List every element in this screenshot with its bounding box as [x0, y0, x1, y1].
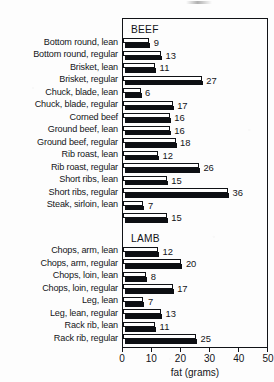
x-axis-title: fat (grams)	[122, 367, 268, 379]
category-label: Leg, lean	[0, 295, 118, 305]
bar-value-label: 15	[171, 212, 181, 223]
bar-value-label: 11	[160, 62, 170, 73]
bar-lower-face	[125, 56, 162, 61]
bar-lower-face	[125, 118, 171, 123]
bar: 27	[123, 76, 202, 87]
bar-lower-face	[125, 81, 203, 86]
bar-lower-face	[125, 327, 156, 332]
bar: 20	[123, 259, 181, 270]
plot-area: BEEF913112761716161812261536715LAMB12208…	[122, 18, 268, 348]
scan-artifact-mark	[186, 1, 212, 4]
bar: 16	[123, 126, 170, 137]
category-label: Rib roast, regular	[0, 162, 118, 172]
bar-lower-face	[125, 168, 200, 173]
bar: 25	[123, 334, 196, 345]
bar-value-label: 8	[151, 271, 156, 282]
category-label: Ground beef, lean	[0, 124, 118, 134]
x-axis-tick	[267, 348, 268, 352]
bar-value-label: 18	[180, 137, 190, 148]
x-axis-tick-label: 50	[262, 353, 273, 365]
group-caption-lamb: LAMB	[131, 233, 160, 244]
x-axis-tick-label: 0	[119, 353, 125, 365]
category-label: Short ribs, regular	[0, 187, 118, 197]
bar-value-label: 12	[163, 246, 173, 257]
bar-lower-face	[125, 43, 150, 48]
bar-lower-face	[125, 68, 156, 73]
x-axis-tick-label: 30	[204, 353, 215, 365]
bar-value-label: 36	[233, 187, 243, 198]
bar-lower-face	[125, 143, 177, 148]
bar: 15	[123, 176, 167, 187]
category-label: Rack rib, lean	[0, 320, 118, 330]
bar-value-label: 7	[148, 200, 153, 211]
bar-lower-face	[125, 106, 174, 111]
bar: 6	[123, 88, 141, 99]
bar: 16	[123, 113, 170, 124]
bar: 15	[123, 213, 167, 224]
fat-grams-bar-chart: Bottom round, leanBottom round, regularB…	[0, 0, 274, 382]
bar: 36	[123, 188, 228, 199]
bar: 7	[123, 201, 143, 212]
bar-value-label: 16	[174, 112, 184, 123]
category-label: Chops, arm, lean	[0, 245, 118, 255]
bar-lower-face	[125, 206, 144, 211]
bar: 9	[123, 38, 149, 49]
category-label: Chuck, blade, regular	[0, 99, 118, 109]
category-label: Bottom round, regular	[0, 49, 118, 59]
bar-value-label: 13	[165, 50, 175, 61]
bar: 13	[123, 309, 161, 320]
bar-lower-face	[125, 302, 144, 307]
x-axis-tick	[180, 348, 181, 352]
bar-value-label: 20	[186, 258, 196, 269]
bar-value-label: 26	[203, 162, 213, 173]
category-label: Leg, lean, regular	[0, 308, 118, 318]
bar-lower-face	[125, 289, 174, 294]
x-axis-tick	[209, 348, 210, 352]
bar-value-label: 9	[154, 37, 159, 48]
bar-value-label: 12	[163, 150, 173, 161]
bar: 17	[123, 101, 173, 112]
category-label: Rib roast, lean	[0, 149, 118, 159]
bar-value-label: 11	[160, 321, 170, 332]
bar-value-label: 27	[206, 75, 216, 86]
x-axis-tick	[122, 348, 123, 352]
category-label: Chops, loin, lean	[0, 270, 118, 280]
bar-lower-face	[125, 314, 162, 319]
x-axis-tick-label: 40	[233, 353, 244, 365]
bar-lower-face	[125, 131, 171, 136]
bar: 11	[123, 63, 155, 74]
bar: 17	[123, 284, 173, 295]
bar-lower-face	[125, 218, 168, 223]
bar: 13	[123, 51, 161, 62]
bar-value-label: 16	[174, 125, 184, 136]
bar-lower-face	[125, 277, 147, 282]
category-label: Chuck, blade, lean	[0, 87, 118, 97]
bar-value-label: 25	[201, 333, 211, 344]
bar-value-label: 7	[148, 296, 153, 307]
bar-value-label: 15	[171, 175, 181, 186]
bar-lower-face	[125, 156, 159, 161]
bar-value-label: 13	[165, 308, 175, 319]
bar: 18	[123, 138, 176, 149]
bar-lower-face	[125, 181, 168, 186]
bar-value-label: 17	[177, 283, 187, 294]
category-label-column: Bottom round, leanBottom round, regularB…	[0, 18, 118, 348]
category-label: Bottom round, lean	[0, 37, 118, 47]
bar-value-label: 6	[145, 87, 150, 98]
bar: 26	[123, 163, 199, 174]
bar-lower-face	[125, 93, 142, 98]
category-label: Steak, sirloin, lean	[0, 199, 118, 209]
x-axis-tick-label: 10	[146, 353, 157, 365]
category-label: Chops, arm, regular	[0, 258, 118, 268]
bar: 8	[123, 272, 146, 283]
bar: 12	[123, 151, 158, 162]
bar-lower-face	[125, 193, 229, 198]
bar: 11	[123, 322, 155, 333]
category-label: Brisket, lean	[0, 62, 118, 72]
bar: 7	[123, 297, 143, 308]
category-label: Ground beef, regular	[0, 137, 118, 147]
bar: 12	[123, 247, 158, 258]
bar-lower-face	[125, 252, 159, 257]
bar-value-label: 17	[177, 100, 187, 111]
group-caption-beef: BEEF	[131, 24, 159, 35]
